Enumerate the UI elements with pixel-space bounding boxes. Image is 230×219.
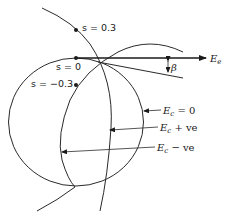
point-s-0 bbox=[74, 56, 78, 60]
label-ec-plus-ve: Ec + ve bbox=[159, 122, 198, 135]
leader-ec-minus-ve bbox=[62, 147, 155, 152]
label-s-neg-0-3: s = −0.3 bbox=[31, 78, 73, 89]
leader-ec-zero bbox=[144, 110, 161, 111]
curve-ec-zero bbox=[9, 58, 144, 186]
label-s-0-3: s = 0.3 bbox=[82, 22, 116, 33]
label-ec-minus-ve: Ec − ve bbox=[156, 142, 195, 155]
point-s-neg-0-3 bbox=[74, 83, 78, 87]
curve-ec-plus-ve bbox=[42, 8, 111, 211]
label-beta: β bbox=[170, 62, 177, 73]
label-ec-zero: Ec = 0 bbox=[162, 105, 195, 118]
label-ee-axis: Ee bbox=[209, 53, 221, 66]
label-s-0: s = 0 bbox=[56, 61, 81, 72]
leader-ec-plus-ve bbox=[110, 127, 158, 130]
point-s-0-3 bbox=[74, 28, 78, 32]
phasor-locus-diagram: s = 0.3 s = 0 s = −0.3 Ee β Ec = 0 Ec + … bbox=[0, 0, 230, 219]
